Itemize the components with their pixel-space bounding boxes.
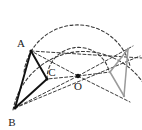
vertex-B-image-dot [123,95,125,97]
segment-AB [15,51,31,108]
ray-O-B-image [78,76,130,102]
arc-group [13,25,142,110]
label-O: O [74,80,82,92]
vertex-A-image-dot [127,48,129,50]
segment-C-image-A-image [110,49,128,72]
vertex-C-image-dot [109,71,111,73]
vertex-A-dot [29,49,32,52]
label-B: B [8,116,15,128]
center-O-dot [76,74,81,79]
label-A: A [17,37,25,49]
image-triangle [110,49,128,96]
label-C: C [48,66,55,78]
ray-O-B [15,76,78,108]
segment-B-image-C-image [110,72,124,96]
ray-O-A-image [78,46,133,76]
vertex-B-dot [13,106,16,109]
rotation-diagram: A B C O [0,0,142,130]
segment-A-image-B-image [124,49,128,96]
